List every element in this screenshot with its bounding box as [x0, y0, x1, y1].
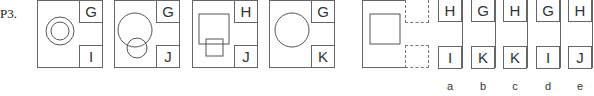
option-a-label[interactable]: a	[438, 80, 462, 92]
option-c[interactable]: H K	[503, 0, 528, 68]
option-c-label[interactable]: c	[503, 80, 527, 92]
panel-1: G I	[37, 0, 103, 68]
option-e-bottom-letter: J	[568, 46, 592, 69]
panel-4: G K	[269, 0, 335, 68]
option-d-top-letter: G	[536, 0, 560, 22]
panel-4-bottom-letter: K	[311, 45, 335, 68]
option-d-bottom-letter: I	[536, 46, 560, 69]
missing-top-letter-slot	[405, 0, 429, 23]
option-b-bottom-letter: K	[471, 46, 495, 69]
option-a[interactable]: H I	[438, 0, 463, 68]
option-a-bottom-letter: I	[438, 46, 462, 69]
option-b-label[interactable]: b	[471, 80, 495, 92]
question-label: P3.	[0, 6, 17, 22]
option-b-edge	[495, 0, 496, 68]
option-c-top-letter: H	[503, 0, 527, 22]
option-e[interactable]: H J	[568, 0, 593, 68]
option-d-edge	[560, 0, 561, 68]
panel-1-top-letter: G	[79, 0, 103, 23]
panel-question	[362, 0, 429, 68]
panel-3: H J	[192, 0, 258, 68]
option-e-top-letter: H	[568, 0, 592, 22]
option-a-top-letter: H	[438, 0, 462, 22]
panel-2: G J	[114, 0, 180, 68]
option-c-edge	[527, 0, 528, 68]
option-b-top-letter: G	[471, 0, 495, 22]
panel-2-top-letter: G	[156, 0, 180, 23]
option-e-edge	[592, 0, 593, 68]
panel-3-bottom-letter: J	[234, 45, 258, 68]
option-d[interactable]: G I	[536, 0, 561, 68]
panel-1-bottom-letter: I	[79, 45, 103, 68]
option-d-label[interactable]: d	[536, 80, 560, 92]
option-a-edge	[462, 0, 463, 68]
panel-2-bottom-letter: J	[156, 45, 180, 68]
option-b[interactable]: G K	[471, 0, 496, 68]
panel-4-top-letter: G	[311, 0, 335, 23]
panel-3-top-letter: H	[234, 0, 258, 23]
missing-bottom-letter-slot	[405, 45, 429, 68]
option-c-bottom-letter: K	[503, 46, 527, 69]
option-e-label[interactable]: e	[568, 80, 592, 92]
